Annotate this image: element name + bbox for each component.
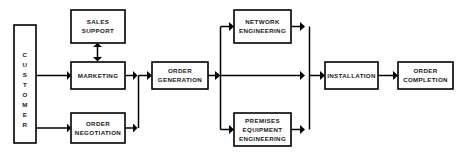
node-customer-letter: U: [23, 61, 28, 68]
node-order-negotiation[interactable]: ORDER NEGOTIATION: [71, 113, 125, 143]
node-customer-letter: C: [23, 51, 28, 58]
edge-network-engineering-to-merge: [291, 22, 305, 31]
node-customer-letter: R: [23, 121, 28, 128]
node-customer-letter: T: [23, 81, 27, 88]
node-order-negotiation-box[interactable]: [71, 113, 125, 143]
node-order-generation-label-line2: GENERATION: [158, 76, 202, 83]
edge-merge-to-order-generation: [139, 71, 153, 80]
node-premises-label-line3: ENGINEERING: [239, 135, 286, 142]
node-marketing[interactable]: MARKETING: [71, 62, 125, 89]
flowchart-canvas: C U S T O M E R SALES SUPPORT MARKETING …: [0, 0, 464, 159]
node-network-engineering-label-line2: ENGINEERING: [239, 27, 286, 34]
edge-marketing-to-sales-support: [93, 43, 102, 62]
edge-marketing-to-merge: [125, 71, 138, 80]
edge-order-generation-to-split: [208, 71, 221, 80]
edge-order-negotiation-to-merge: [125, 124, 138, 133]
node-installation-label: INSTALLATION: [327, 72, 376, 79]
node-order-completion-label-line1: ORDER: [413, 67, 437, 74]
edge-merge-to-installation: [310, 71, 326, 80]
node-customer-letter: M: [22, 101, 28, 108]
flowchart-diagram: C U S T O M E R SALES SUPPORT MARKETING …: [0, 0, 464, 159]
node-marketing-label: MARKETING: [78, 72, 119, 79]
node-sales-support[interactable]: SALES SUPPORT: [71, 10, 125, 43]
node-customer-letter: S: [23, 71, 27, 78]
node-network-engineering[interactable]: NETWORK ENGINEERING: [234, 10, 291, 43]
node-order-negotiation-label-line2: NEGOTIATION: [75, 129, 122, 136]
node-order-negotiation-label-line1: ORDER: [86, 120, 110, 127]
node-order-generation-label-line1: ORDER: [168, 67, 192, 74]
edge-customer-to-marketing: [36, 71, 71, 80]
center-through-line: [221, 71, 306, 80]
edge-installation-to-order-completion: [378, 71, 398, 80]
node-installation[interactable]: INSTALLATION: [325, 62, 378, 89]
edge-customer-to-order-negotiation: [36, 124, 71, 133]
node-sales-support-label-line2: SUPPORT: [82, 27, 114, 34]
node-sales-support-label-line1: SALES: [87, 18, 109, 25]
node-premises-equipment-engineering[interactable]: PREMISES EQUIPMENT ENGINEERING: [234, 113, 291, 146]
node-customer[interactable]: C U S T O M E R: [14, 25, 36, 143]
edge-premises-to-merge: [291, 125, 305, 134]
split-bus: [221, 27, 230, 130]
node-customer-letter: E: [23, 111, 27, 118]
node-premises-label-line2: EQUIPMENT: [243, 126, 283, 133]
node-customer-letter: O: [22, 91, 27, 98]
node-order-completion-label-line2: COMPLETION: [403, 76, 448, 83]
node-order-completion[interactable]: ORDER COMPLETION: [398, 62, 453, 89]
node-order-generation[interactable]: ORDER GENERATION: [152, 62, 208, 89]
node-premises-label-line1: PREMISES: [245, 117, 280, 124]
node-network-engineering-label-line1: NETWORK: [245, 18, 280, 25]
